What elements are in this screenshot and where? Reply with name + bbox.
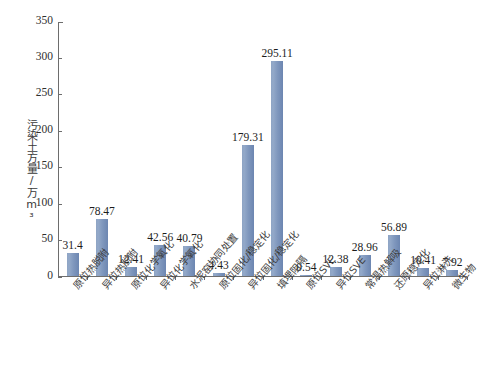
y-tick-label: 250 <box>36 86 53 98</box>
y-tick: 150 <box>58 167 62 168</box>
y-tick-label: 150 <box>36 159 53 171</box>
y-tick: 300 <box>58 58 62 59</box>
bar-value-label: 56.89 <box>364 221 424 233</box>
y-tick-mark <box>58 131 62 132</box>
y-tick-mark <box>58 94 62 95</box>
y-tick-mark <box>58 22 62 23</box>
y-tick-mark <box>58 277 62 278</box>
y-tick-mark <box>58 204 62 205</box>
y-tick-label: 300 <box>36 50 53 62</box>
y-tick-label: 350 <box>36 14 53 26</box>
bar-value-label: 179.31 <box>218 131 278 143</box>
y-tick: 100 <box>58 204 62 205</box>
chart-page: 污染土方量/万m³ 050100150200250300350 31.478.4… <box>0 0 497 371</box>
bar-value-label: 31.4 <box>43 239 103 251</box>
y-tick-label: 200 <box>36 123 53 135</box>
y-tick: 200 <box>58 131 62 132</box>
y-tick: 0 <box>58 277 62 278</box>
y-tick-label: 0 <box>47 269 53 281</box>
y-tick: 250 <box>58 94 62 95</box>
y-tick: 350 <box>58 22 62 23</box>
bar-value-label: 78.47 <box>72 205 132 217</box>
y-tick-mark <box>58 58 62 59</box>
bar-value-label: 295.11 <box>247 47 307 59</box>
y-tick-label: 100 <box>36 196 53 208</box>
y-tick-mark <box>58 167 62 168</box>
